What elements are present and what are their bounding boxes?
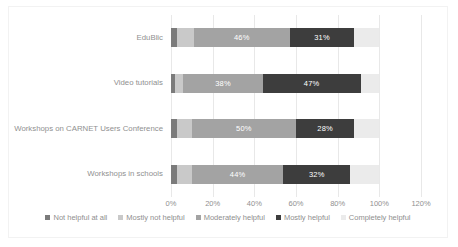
bar-segment: 50% bbox=[192, 119, 296, 138]
bar-segment bbox=[350, 165, 379, 184]
x-tick-label: 20% bbox=[205, 199, 220, 208]
bar-segment: 44% bbox=[192, 165, 284, 184]
bar-segment bbox=[354, 119, 379, 138]
legend-item[interactable]: Mostly not helpful bbox=[118, 213, 184, 222]
bar-segment bbox=[177, 165, 192, 184]
legend-item[interactable]: Mostly helpful bbox=[276, 213, 330, 222]
bar-segment bbox=[354, 28, 379, 47]
legend-swatch-icon bbox=[118, 215, 123, 220]
x-tick-label: 60% bbox=[288, 199, 303, 208]
legend-label: Not helpful at all bbox=[53, 213, 107, 222]
legend-item[interactable]: Moderately helpful bbox=[196, 213, 265, 222]
x-tick-label: 40% bbox=[247, 199, 262, 208]
value-axis: 0%20%40%60%80%100%120% bbox=[171, 197, 421, 211]
chart-container: EduBlicVideo tutorialsWorkshops on CARNE… bbox=[8, 6, 448, 238]
category-label: Video tutorials bbox=[114, 78, 163, 87]
legend-label: Mostly not helpful bbox=[126, 213, 184, 222]
bar-segment: 47% bbox=[263, 74, 361, 93]
bar-segment: 32% bbox=[283, 165, 350, 184]
x-tick-label: 100% bbox=[370, 199, 389, 208]
bar-segment: 31% bbox=[290, 28, 355, 47]
legend-swatch-icon bbox=[341, 215, 346, 220]
bar-rows: 46%31%38%47%50%28%44%32% bbox=[171, 15, 421, 197]
stacked-bar: 46%31% bbox=[171, 28, 421, 47]
stacked-bar: 50%28% bbox=[171, 119, 421, 138]
category-label: Workshops in schools bbox=[87, 169, 163, 178]
legend-swatch-icon bbox=[45, 215, 50, 220]
bar-segment bbox=[361, 74, 380, 93]
category-label: EduBlic bbox=[137, 33, 163, 42]
x-tick-label: 0% bbox=[166, 199, 177, 208]
bar-segment bbox=[177, 119, 192, 138]
x-tick-label: 120% bbox=[411, 199, 430, 208]
legend-swatch-icon bbox=[276, 215, 281, 220]
bar-segment: 38% bbox=[183, 74, 262, 93]
legend-label: Completely helpful bbox=[349, 213, 411, 222]
bar-segment: 28% bbox=[296, 119, 354, 138]
bar-segment: 46% bbox=[194, 28, 290, 47]
category-axis: EduBlicVideo tutorialsWorkshops on CARNE… bbox=[9, 15, 167, 197]
legend-item[interactable]: Completely helpful bbox=[341, 213, 411, 222]
gridline-120 bbox=[421, 15, 422, 197]
category-label: Workshops on CARNET Users Conference bbox=[14, 124, 163, 133]
legend-item[interactable]: Not helpful at all bbox=[45, 213, 107, 222]
bar-segment bbox=[175, 74, 183, 93]
legend-swatch-icon bbox=[196, 215, 201, 220]
legend-label: Mostly helpful bbox=[284, 213, 330, 222]
legend: Not helpful at allMostly not helpfulMode… bbox=[9, 213, 447, 222]
stacked-bar: 38%47% bbox=[171, 74, 421, 93]
legend-label: Moderately helpful bbox=[204, 213, 265, 222]
x-tick-label: 80% bbox=[330, 199, 345, 208]
bar-segment bbox=[177, 28, 194, 47]
stacked-bar: 44%32% bbox=[171, 165, 421, 184]
plot-area: 46%31%38%47%50%28%44%32% bbox=[171, 15, 421, 197]
